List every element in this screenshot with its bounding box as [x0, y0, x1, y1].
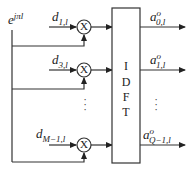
idft-letter-t: T — [112, 106, 140, 118]
multiplier-1-symbol: X — [80, 21, 88, 32]
output-ellipsis: ··· — [153, 97, 159, 112]
carrier-feed-3 — [12, 153, 84, 162]
multiplier-2-symbol: X — [80, 64, 88, 75]
carrier-label: ejπl — [8, 12, 23, 26]
carrier-feed-1 — [12, 35, 84, 46]
multiplier-3-symbol: X — [80, 139, 88, 150]
input-label-2: d3,l — [52, 53, 68, 70]
idft-letter-f: F — [112, 91, 140, 103]
carrier-feed-2 — [12, 78, 84, 89]
output-label-3: aoQ−1,l — [143, 127, 171, 145]
input-label-3: dM−1,l — [36, 127, 65, 144]
input-label-1: d1,l — [52, 10, 68, 27]
idft-letter-d: D — [112, 76, 140, 88]
idft-letter-i: I — [112, 60, 140, 72]
output-label-1: ao0,l — [150, 9, 165, 27]
input-ellipsis: ··· — [82, 97, 88, 112]
output-label-2: ao1,l — [150, 52, 165, 70]
